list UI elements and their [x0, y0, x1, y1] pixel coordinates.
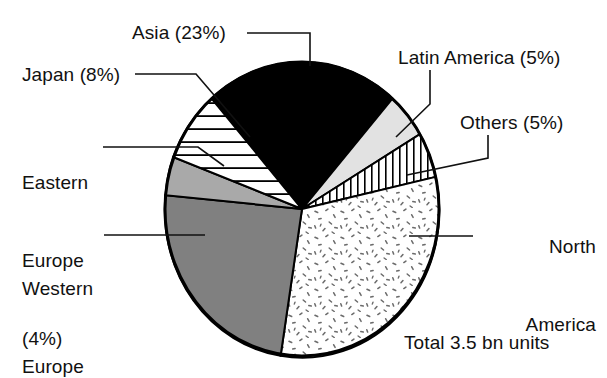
slice-label-latin-america: Latin America (5%) — [398, 45, 560, 71]
slice-label-japan: Japan (8%) — [22, 62, 120, 88]
pie-chart-figure: Asia (23%) Japan (8%) Eastern Europe (4%… — [0, 0, 607, 378]
pie-slice-western-europe[interactable] — [165, 195, 302, 356]
slice-label-western-europe: Western Europe (24%) — [22, 224, 93, 378]
slice-label-western-europe-line1: Western — [22, 276, 93, 302]
chart-total-annotation: Total 3.5 bn units — [404, 330, 549, 356]
slice-label-others: Others (5%) — [460, 110, 564, 136]
slice-label-north-america-line1: North — [478, 234, 596, 260]
slice-label-western-europe-line2: Europe — [22, 354, 93, 378]
slice-label-asia: Asia (23%) — [132, 20, 226, 46]
slice-label-eastern-europe-line1: Eastern — [22, 170, 88, 196]
